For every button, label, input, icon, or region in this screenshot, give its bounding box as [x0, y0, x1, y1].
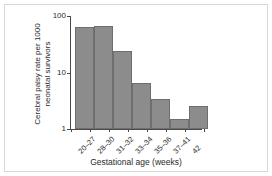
y-tick-mark: [67, 73, 71, 74]
figure: Cerebral palsy rate per 1000 neonatal su…: [0, 0, 272, 176]
y-axis-title-line1: Cerebral palsy rate per 1000: [33, 18, 43, 130]
y-tick-mark: [67, 16, 71, 17]
bar-37-41[interactable]: [170, 119, 189, 129]
y-axis-title: Cerebral palsy rate per 1000 neonatal su…: [33, 18, 53, 130]
x-tick-mark: [71, 129, 72, 132]
x-tick-label: 35–36: [153, 135, 173, 155]
y-tick-label: 100: [53, 12, 66, 20]
x-tick-label: 28–30: [96, 135, 116, 155]
bar-20-27[interactable]: [75, 27, 94, 129]
plot-area: 100 10 1 20–27 28–30 31–32 3: [70, 16, 202, 130]
x-tick-mark: [128, 129, 129, 132]
x-tick-mark: [90, 129, 91, 132]
bar-slot: 42: [189, 16, 208, 129]
y-tick-label: 1: [62, 125, 66, 133]
bar-slot: 33–34: [132, 16, 151, 129]
x-tick-label: 37–41: [172, 135, 192, 155]
y-axis-title-line2: neonatal survivors: [43, 18, 53, 130]
x-tick-label: 33–34: [134, 135, 154, 155]
bar-28-30[interactable]: [94, 26, 113, 129]
bar-35-36[interactable]: [151, 99, 170, 129]
bar-slot: 28–30: [94, 16, 113, 129]
bar-slot: 35–36: [151, 16, 170, 129]
bar-31-32[interactable]: [113, 51, 132, 129]
x-axis-title: Gestational age (weeks): [0, 157, 272, 167]
bar-slot: 20–27: [75, 16, 94, 129]
x-tick-mark: [204, 129, 205, 132]
bar-42[interactable]: [189, 106, 208, 129]
x-tick-label: 42: [191, 144, 202, 155]
x-tick-label: 31–32: [115, 135, 135, 155]
y-tick-label: 10: [57, 69, 66, 77]
bar-slot: 37–41: [170, 16, 189, 129]
x-tick-mark: [147, 129, 148, 132]
x-tick-mark: [109, 129, 110, 132]
x-tick-label: 20–27: [77, 135, 97, 155]
x-tick-mark: [185, 129, 186, 132]
bar-33-34[interactable]: [132, 83, 151, 129]
bar-slot: 31–32: [113, 16, 132, 129]
x-tick-mark: [166, 129, 167, 132]
